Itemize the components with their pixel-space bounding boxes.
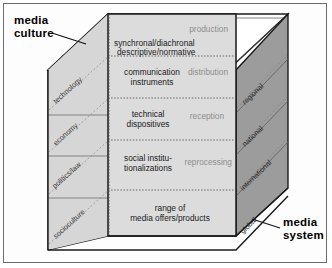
diagram-canvas: production synchronal/diachronal descrip… (0, 0, 332, 268)
aspect-label-row2-line2: instruments (131, 77, 174, 87)
aspect-label-row4-line2: tionalizations (124, 163, 172, 173)
aspect-label-row5-line2: media offers/products (130, 213, 210, 223)
process-label-distribution: distribution (188, 67, 229, 77)
process-label-production: production (189, 24, 228, 34)
aspect-label-row4-line1: social institu- (124, 153, 172, 163)
aspect-label-row5-line1: range of (155, 203, 186, 213)
aspect-label-row1-line2: descriptive/normative (117, 47, 196, 57)
aspect-label-row3-line2: dispositives (127, 119, 170, 129)
process-label-reception: reception (190, 111, 225, 121)
callout-media-culture: media culture (14, 14, 54, 40)
callout-media-system: media system (283, 216, 324, 242)
aspect-label-row3-line1: technical (132, 109, 165, 119)
process-label-reprocessing: reprocessing (184, 157, 232, 167)
aspect-label-row2-line1: communication (124, 67, 180, 77)
